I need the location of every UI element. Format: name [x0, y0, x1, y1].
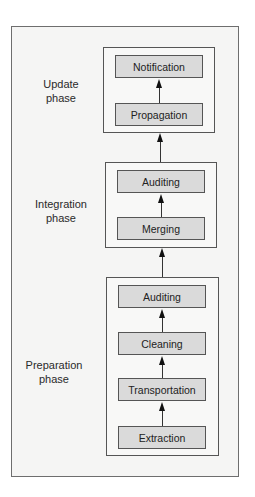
step-auditing: Auditing [118, 285, 206, 308]
step-transportation: Transportation [118, 378, 206, 401]
arrow-up-icon [157, 133, 163, 142]
step-merging: Merging [117, 217, 205, 240]
step-propagation: Propagation [115, 103, 203, 126]
arrow-up-icon [159, 402, 165, 411]
integration-phase-box: Auditing Merging [105, 162, 217, 248]
label-line: Update [21, 77, 101, 91]
update-phase-label: Update phase [21, 77, 101, 105]
preparation-phase-label: Preparation phase [14, 358, 94, 386]
integration-phase-label: Integration phase [21, 197, 101, 225]
connector-line [161, 201, 162, 218]
label-line: phase [14, 372, 94, 386]
connector-line [162, 316, 163, 332]
preparation-phase-box: Auditing Cleaning Transportation Extract… [106, 277, 219, 456]
update-phase-box: Notification Propagation [103, 47, 215, 133]
label-line: phase [21, 91, 101, 105]
connector-line [162, 255, 163, 277]
arrow-up-icon [156, 79, 162, 88]
connector-line [162, 363, 163, 378]
step-notification: Notification [115, 55, 203, 78]
step-auditing: Auditing [117, 170, 205, 193]
arrow-up-icon [159, 356, 165, 365]
label-line: Integration [21, 197, 101, 211]
step-cleaning: Cleaning [118, 332, 206, 355]
connector-line [159, 86, 160, 103]
connector-line [162, 409, 163, 426]
step-extraction: Extraction [118, 426, 206, 449]
arrow-up-icon [159, 248, 165, 257]
arrow-up-icon [159, 309, 165, 318]
connector-line [160, 140, 161, 162]
label-line: phase [21, 211, 101, 225]
label-line: Preparation [14, 358, 94, 372]
arrow-up-icon [158, 194, 164, 203]
